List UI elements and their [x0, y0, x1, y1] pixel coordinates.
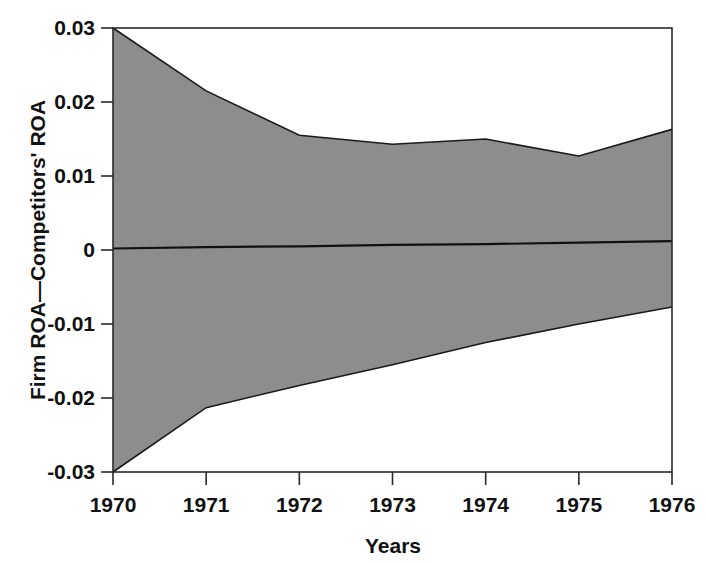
y-tick-label: -0.02 [47, 386, 95, 409]
x-tick-label: 1974 [462, 493, 509, 516]
x-tick-label: 1976 [649, 493, 696, 516]
y-axis-tick-labels: 0.030.020.010-0.01-0.02-0.03 [47, 16, 95, 483]
x-tick-label: 1970 [90, 493, 137, 516]
y-tick-label: -0.01 [47, 312, 95, 335]
x-tick-label: 1975 [555, 493, 602, 516]
y-axis-ticks [101, 28, 113, 472]
y-tick-label: 0 [83, 238, 95, 261]
y-tick-label: 0.03 [54, 16, 95, 39]
x-tick-label: 1971 [183, 493, 230, 516]
y-tick-label: -0.03 [47, 460, 95, 483]
x-axis-ticks [113, 472, 672, 485]
chart-figure: 0.030.020.010-0.01-0.02-0.03 19701971197… [0, 0, 706, 563]
x-axis-title: Years [365, 534, 421, 557]
y-tick-label: 0.02 [54, 90, 95, 113]
roa-band-chart: 0.030.020.010-0.01-0.02-0.03 19701971197… [0, 0, 706, 563]
x-tick-label: 1973 [369, 493, 416, 516]
y-tick-label: 0.01 [54, 164, 95, 187]
y-axis-title: Firm ROA—Competitors' ROA [26, 100, 49, 400]
x-axis-tick-labels: 1970197119721973197419751976 [90, 493, 696, 516]
x-tick-label: 1972 [276, 493, 323, 516]
